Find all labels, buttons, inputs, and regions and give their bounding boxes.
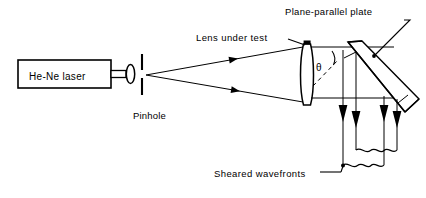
ray-diagram-svg <box>0 0 426 198</box>
label-plane-parallel-plate: Plane-parallel plate <box>285 6 372 17</box>
sheared-beam-1-arrow <box>339 105 348 122</box>
label-lens-under-test: Lens under test <box>196 32 268 43</box>
lens-under-test <box>301 44 314 105</box>
figure-canvas: He-Ne laser Pinhole Lens under test Plan… <box>0 0 426 198</box>
label-theta-angle: θ <box>316 62 322 73</box>
wavefront-brace-upper <box>356 149 397 152</box>
label-laser: He-Ne laser <box>29 71 86 82</box>
focusing-lens <box>126 65 134 84</box>
lens-mount-tick <box>304 41 311 45</box>
ray-arrow-upper <box>229 55 239 63</box>
wavefront-brace-lower <box>343 164 384 167</box>
laser-output-tube <box>111 71 126 78</box>
plate-reflection-upper <box>344 52 356 58</box>
sheared-beam-4-arrow <box>393 111 402 128</box>
leader-plate <box>374 20 410 56</box>
diverging-ray-bundle <box>146 47 303 102</box>
label-pinhole: Pinhole <box>133 110 166 121</box>
plane-parallel-plate <box>344 41 419 112</box>
ray-arrow-lower <box>231 86 241 94</box>
theta-arc <box>332 51 335 65</box>
leader-lens <box>288 39 305 45</box>
label-sheared-wavefronts: Sheared wavefronts <box>214 168 306 179</box>
sheared-beam-3-arrow <box>380 105 389 122</box>
leader-plate-dot <box>372 54 376 58</box>
sheared-beam-2-arrow <box>352 111 361 128</box>
